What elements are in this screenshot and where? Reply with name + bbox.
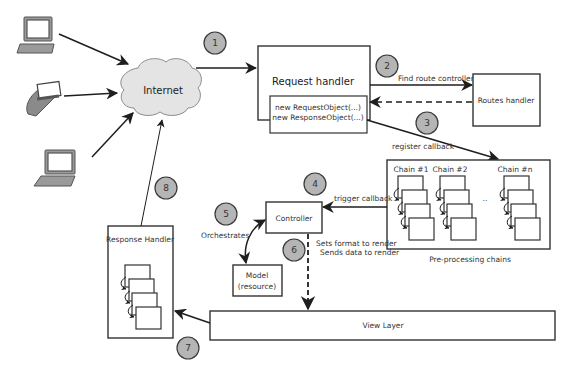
request-handler-title: Request handler — [272, 76, 355, 87]
pda-icon — [27, 82, 61, 116]
svg-text:3: 3 — [424, 118, 430, 128]
svg-text:5: 5 — [223, 209, 229, 219]
view-layer-box: View Layer — [210, 311, 555, 340]
svg-text:1: 1 — [212, 38, 218, 48]
chain-2-label: Chain #2 — [433, 165, 468, 174]
step-2-badge: 2 — [376, 55, 398, 77]
arrow-laptop-to-internet — [59, 34, 128, 64]
chain-n-label: Chain #n — [498, 165, 533, 174]
architecture-diagram: Internet Request handler new RequestObje… — [0, 0, 573, 376]
controller-box: Controller — [266, 202, 322, 233]
model-label: Model — [246, 271, 269, 280]
step-8-badge: 8 — [155, 177, 177, 199]
laptop-bottom-icon — [34, 150, 75, 186]
step-7-badge: 7 — [177, 337, 199, 359]
arrow-pda-to-internet — [64, 93, 117, 96]
chain-1-label: Chain #1 — [394, 165, 429, 174]
request-object-line: new RequestObject(...) — [275, 103, 361, 112]
svg-text:8: 8 — [163, 183, 169, 193]
register-callback-label: register callback — [392, 142, 455, 151]
internet-label: Internet — [143, 85, 183, 96]
controller-label: Controller — [276, 214, 314, 223]
internet-cloud: Internet — [121, 59, 202, 116]
sets-format-label: Sets format to render — [316, 239, 398, 248]
trigger-callback-label: trigger callback — [334, 194, 393, 203]
response-handler-label: Response Handler — [106, 235, 175, 244]
laptop-top-icon — [17, 17, 54, 53]
response-handler-box: Response Handler — [106, 226, 175, 338]
step-6-badge: 6 — [283, 239, 305, 261]
step-4-badge: 4 — [304, 173, 326, 195]
step-5-badge: 5 — [215, 203, 237, 225]
step-1-badge: 1 — [204, 32, 226, 54]
model-resource-label: (resource) — [238, 282, 276, 291]
routes-handler-label: Routes handler — [478, 96, 536, 105]
svg-text:2: 2 — [384, 61, 390, 71]
chain-ellipsis: .. — [483, 194, 488, 203]
orchestrates-label: Orchestrates — [201, 231, 249, 240]
svg-text:6: 6 — [291, 245, 297, 255]
arrow-response-to-internet — [141, 120, 162, 226]
svg-text:7: 7 — [185, 343, 191, 353]
view-layer-label: View Layer — [362, 321, 404, 330]
preprocessing-chains-box: Chain #1 Chain #2 Chain #n .. — [387, 160, 550, 249]
sends-data-label: Sends data to render — [320, 248, 400, 257]
request-handler-box: Request handler new RequestObject(...) n… — [258, 46, 370, 133]
arrow-orchestrates — [245, 220, 265, 263]
preprocessing-caption: Pre-processing chains — [429, 255, 511, 264]
step-3-badge: 3 — [416, 112, 438, 134]
response-object-line: new ResponseObject(...) — [272, 113, 363, 122]
find-route-label: Find route controller — [398, 74, 475, 83]
routes-handler-box: Routes handler — [473, 74, 540, 126]
arrow-view-to-response — [175, 311, 210, 323]
svg-text:4: 4 — [312, 179, 318, 189]
arrow-laptop2-to-internet — [92, 113, 133, 157]
model-box: Model (resource) — [233, 265, 282, 296]
